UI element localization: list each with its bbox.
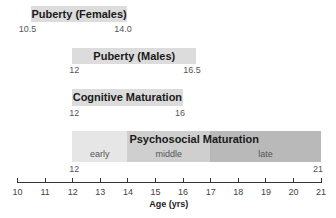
x-tick-label: 16 (178, 187, 188, 197)
x-tick (321, 178, 322, 183)
x-tick-label: 18 (233, 187, 243, 197)
start-value: 10.5 (19, 24, 37, 34)
x-tick-label: 19 (261, 187, 271, 197)
x-tick (45, 178, 46, 183)
x-tick (183, 178, 184, 183)
x-axis (17, 182, 322, 183)
start-value: 12 (69, 65, 79, 75)
end-value: 16.5 (183, 65, 201, 75)
x-tick-label: 15 (150, 187, 160, 197)
x-axis-label: Age (yrs) (149, 199, 188, 209)
x-tick-label: 13 (95, 187, 105, 197)
x-tick (210, 178, 211, 183)
segment-label-early: early (90, 149, 110, 159)
x-tick (100, 178, 101, 183)
end-value: 14.0 (114, 24, 132, 34)
x-tick (238, 178, 239, 183)
x-tick-label: 20 (288, 187, 298, 197)
end-value: 21 (313, 164, 323, 174)
start-value: 12 (69, 108, 79, 118)
x-tick-label: 10 (12, 187, 22, 197)
x-tick-label: 14 (123, 187, 133, 197)
x-tick (17, 178, 18, 183)
x-tick (127, 178, 128, 183)
x-tick (265, 178, 266, 183)
x-tick-label: 11 (40, 187, 49, 197)
end-value: 16 (175, 108, 185, 118)
x-tick (293, 178, 294, 183)
x-tick (155, 178, 156, 183)
x-tick-label: 12 (68, 187, 78, 197)
segment-label-late: late (258, 149, 273, 159)
segment-label-middle: middle (156, 149, 183, 159)
start-value: 12 (69, 164, 79, 174)
x-tick-label: 17 (206, 187, 216, 197)
x-tick-label: 21 (316, 187, 326, 197)
bar-title-cognitive-maturation: Cognitive Maturation (73, 91, 182, 103)
bar-title-puberty-females: Puberty (Females) (31, 8, 126, 20)
x-tick (72, 178, 73, 183)
bar-title-puberty-males: Puberty (Males) (93, 50, 175, 62)
bar-title-psychosocial-maturation: Psychosocial Maturation (129, 133, 259, 145)
